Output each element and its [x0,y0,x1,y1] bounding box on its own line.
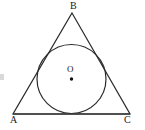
center-label-o: O [67,64,74,74]
geometry-figure: B A C O [0,0,145,130]
vertex-label-b: B [70,1,77,11]
edge-artifact [0,74,4,80]
vertex-label-c: C [124,115,131,125]
vertex-label-a: A [10,115,17,125]
incircle-center-dot [70,77,73,80]
